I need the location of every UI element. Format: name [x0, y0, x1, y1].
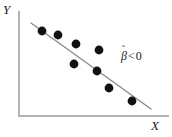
scatter-plot-figure: Y X ˆβ<0 [0, 0, 172, 137]
x-axis-label: X [151, 119, 159, 132]
less-than-symbol: < [127, 49, 136, 63]
data-point [38, 27, 47, 36]
y-axis-label: Y [3, 3, 10, 16]
beta-symbol: ˆβ [121, 50, 127, 62]
regression-line [31, 23, 151, 109]
data-point [105, 84, 114, 93]
annotation-value: 0 [136, 49, 142, 63]
data-point [54, 31, 63, 40]
data-point [72, 40, 81, 49]
slope-annotation: ˆβ<0 [121, 50, 142, 62]
data-point [70, 60, 79, 69]
plot-canvas [0, 0, 172, 137]
data-point [128, 97, 137, 106]
hat-accent: ˆ [121, 45, 126, 55]
data-point [95, 46, 104, 55]
data-point [93, 67, 102, 76]
